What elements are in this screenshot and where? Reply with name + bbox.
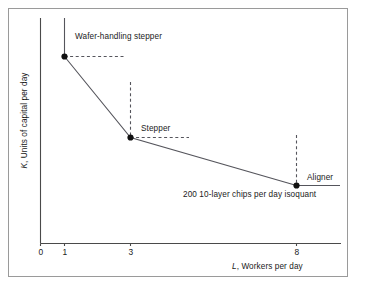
annotation-aligner: Aligner [307,173,333,182]
figure-container: K, Units of capital per day L, Workers p… [0,0,368,284]
y-axis-label: K, Units of capital per day [20,56,29,186]
annotation-stepper: Stepper [141,124,170,133]
data-point-aligner[interactable] [293,182,299,188]
data-point-wafer-handling-stepper[interactable] [61,53,67,59]
x-axis-label: L, Workers per day [232,262,303,271]
x-axis-label-text: , Workers per day [237,262,303,271]
x-tick-label-1: 1 [55,248,75,258]
x-tick-label-8: 8 [287,248,307,258]
y-axis-symbol: K [20,163,29,169]
x-tick-label-3: 3 [121,248,141,258]
chart-canvas [0,0,368,284]
data-point-stepper[interactable] [127,134,133,140]
x-tick-label-0: 0 [31,248,51,258]
y-axis-label-text: , Units of capital per day [20,73,29,163]
isoquant-curve [65,57,297,186]
annotation-wafer-handling-stepper: Wafer-handling stepper [75,32,162,41]
annotation-isoquant: 200 10-layer chips per day isoquant [183,190,316,199]
